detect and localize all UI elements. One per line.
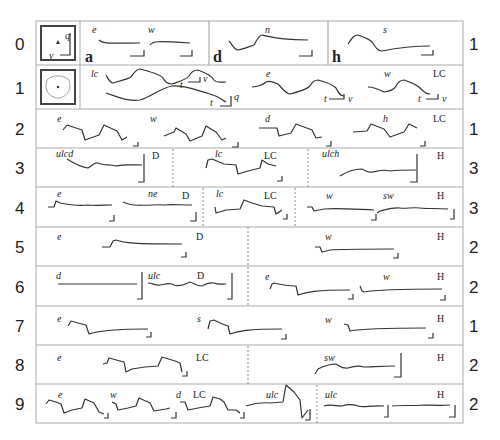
row-index: 2 — [15, 120, 24, 139]
row-6-panel-d-ulc: d ulc D — [56, 270, 232, 299]
row-index: 6 — [15, 278, 24, 297]
svg-text:v: v — [203, 73, 208, 84]
svg-text:sw: sw — [383, 190, 394, 201]
svg-text:D: D — [197, 270, 204, 281]
svg-text:e: e — [57, 113, 62, 124]
phase-plane-axes-icon: q v — [41, 26, 75, 61]
svg-text:q: q — [234, 91, 239, 102]
svg-text:H: H — [437, 313, 444, 324]
svg-text:d: d — [265, 113, 271, 124]
svg-text:a: a — [85, 48, 93, 65]
svg-text:n: n — [265, 24, 270, 35]
svg-text:t: t — [180, 79, 183, 90]
row-6-panel-e-w: e w H — [265, 271, 445, 300]
svg-text:w: w — [383, 271, 390, 282]
row-4-panel-lc: lc LC — [215, 188, 287, 219]
row-count: 2 — [469, 278, 478, 297]
row-index-labels: 0 1 2 3 4 5 6 7 8 9 — [15, 35, 24, 414]
svg-text:d: d — [56, 270, 62, 281]
row-3-panel-ulcd: ulcd D — [56, 148, 159, 182]
row-index: 9 — [15, 395, 24, 414]
svg-text:lc: lc — [91, 68, 99, 79]
row-count: 1 — [469, 35, 478, 54]
row-4-panel-e-ne: e ne D — [48, 188, 196, 221]
svg-text:LC: LC — [264, 150, 277, 161]
limit-cycle-orbit-icon — [41, 70, 75, 104]
svg-text:D: D — [196, 231, 203, 242]
row-3-panel-lc: lc LC — [206, 148, 282, 181]
svg-text:D: D — [152, 150, 159, 161]
row-count: 3 — [469, 159, 478, 178]
row-count: 1 — [469, 317, 478, 336]
row-8-panel-e: e LC — [57, 352, 209, 376]
svg-text:v: v — [348, 93, 353, 104]
svg-text:t: t — [324, 93, 327, 104]
svg-text:D: D — [182, 190, 189, 201]
svg-text:t: t — [418, 93, 421, 104]
row-8-panel-sw: sw H — [315, 352, 444, 377]
svg-text:w: w — [148, 24, 155, 35]
svg-text:e: e — [57, 188, 62, 199]
svg-text:e: e — [265, 271, 270, 282]
svg-text:d: d — [213, 48, 222, 65]
row-count: 2 — [469, 356, 478, 375]
row-1-panel-lc: lc t v t q — [91, 68, 239, 108]
svg-text:H: H — [437, 190, 444, 201]
row-index: 5 — [15, 238, 24, 257]
row-0-panel-a: e w a — [85, 24, 192, 65]
row-1-panel-w: w LC t v — [368, 68, 447, 104]
svg-text:d: d — [176, 389, 182, 400]
row-0-panel-d: n d — [213, 24, 312, 65]
svg-text:ulc: ulc — [148, 270, 161, 281]
svg-text:h: h — [383, 113, 388, 124]
svg-text:s: s — [197, 313, 201, 324]
row-9-panel-lc: e w d LC ulc — [46, 385, 310, 420]
svg-text:v: v — [49, 50, 54, 61]
svg-text:h: h — [332, 48, 341, 65]
svg-text:w: w — [326, 190, 333, 201]
svg-text:H: H — [437, 231, 444, 242]
svg-text:ulc: ulc — [266, 389, 279, 400]
row-2-panel: e w d h LC — [57, 113, 446, 147]
row-count: 1 — [469, 120, 478, 139]
svg-text:e: e — [57, 231, 62, 242]
row-9-panel-ulc-h: ulc H — [324, 389, 455, 417]
svg-text:s: s — [383, 24, 387, 35]
row-count: 3 — [469, 199, 478, 218]
svg-text:e: e — [57, 313, 62, 324]
svg-text:LC: LC — [193, 389, 206, 400]
figure: 0 1 2 3 4 5 6 7 8 9 1 1 1 3 3 2 2 1 2 2 … — [0, 0, 500, 440]
row-index: 3 — [15, 159, 24, 178]
svg-text:e: e — [58, 389, 63, 400]
svg-text:lc: lc — [216, 188, 224, 199]
svg-text:v: v — [442, 93, 447, 104]
svg-text:ne: ne — [148, 188, 158, 199]
row-4-panel-w-sw: w sw H — [307, 190, 454, 220]
svg-text:e: e — [266, 68, 271, 79]
svg-text:e: e — [92, 24, 97, 35]
row-index: 4 — [15, 199, 24, 218]
row-index: 0 — [15, 35, 24, 54]
svg-text:w: w — [150, 113, 157, 124]
svg-text:w: w — [325, 231, 332, 242]
svg-text:H: H — [437, 352, 444, 363]
row-count-labels: 1 1 1 3 3 2 2 1 2 2 — [469, 35, 478, 414]
row-5-panel-e: e D — [57, 231, 203, 257]
svg-text:H: H — [437, 389, 444, 400]
svg-text:t: t — [210, 97, 213, 108]
svg-text:H: H — [437, 150, 444, 161]
row-index: 8 — [15, 356, 24, 375]
svg-text:w: w — [325, 314, 332, 325]
row-7-panel: e s w H — [57, 313, 444, 339]
svg-text:lc: lc — [215, 148, 223, 159]
row-1-panel-e: e t v — [252, 68, 353, 104]
row-3-panel-ulch: ulch H — [322, 148, 444, 182]
svg-text:q: q — [65, 30, 70, 41]
svg-text:H: H — [437, 271, 444, 282]
svg-text:sw: sw — [324, 352, 335, 363]
svg-text:w: w — [384, 68, 391, 79]
row-index: 1 — [15, 79, 24, 98]
svg-text:LC: LC — [264, 190, 277, 201]
row-count: 2 — [469, 238, 478, 257]
svg-text:LC: LC — [196, 352, 209, 363]
